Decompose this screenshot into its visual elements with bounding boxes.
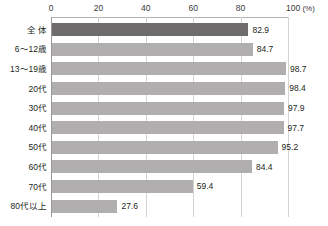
bar-container: 27.6 [52,196,328,216]
category-label: 50代 [0,138,47,158]
x-tick-label-100: 100 (%) [286,3,315,14]
bar-value-label: 97.7 [288,123,305,133]
category-label: 60代 [0,157,47,177]
bar-container: 82.9 [52,20,328,40]
category-label: 全 体 [0,20,47,40]
category-label: 40代 [0,118,47,138]
category-label: 6〜12歳 [0,40,47,60]
category-label: 20代 [0,79,47,99]
category-label: 13〜19歳 [0,59,47,79]
chart-row: 6〜12歳84.7 [0,40,328,60]
bar-container: 97.9 [52,98,328,118]
bar-chart: 020406080100 (%)全 体82.96〜12歳84.713〜19歳98… [0,0,328,226]
chart-row: 20代98.4 [0,79,328,99]
x-tick-label-40: 40 [141,3,150,13]
bar-container: 84.4 [52,157,328,177]
bar-value-label: 95.2 [282,142,299,152]
chart-row: 50代95.2 [0,138,328,158]
x-tick-label-0: 0 [49,3,54,13]
bar [52,102,284,115]
x-tick-label-80: 80 [236,3,245,13]
bar-value-label: 84.7 [257,44,274,54]
bar-container: 84.7 [52,40,328,60]
category-label: 30代 [0,98,47,118]
bar-container: 59.4 [52,177,328,197]
bar-value-label: 59.4 [197,181,214,191]
bar [52,160,252,173]
bar-container: 98.7 [52,59,328,79]
bar-container: 97.7 [52,118,328,138]
chart-row: 13〜19歳98.7 [0,59,328,79]
chart-row: 70代59.4 [0,177,328,197]
chart-row: 40代97.7 [0,118,328,138]
bar-value-label: 97.9 [288,103,305,113]
bar-value-label: 98.4 [289,83,306,93]
bar-value-label: 27.6 [121,201,138,211]
bar [52,43,253,56]
bar-container: 98.4 [52,79,328,99]
category-label: 70代 [0,177,47,197]
bar [52,23,248,36]
x-tick-label-20: 20 [94,3,103,13]
category-label: 80代以上 [0,196,47,216]
bar-value-label: 82.9 [252,25,269,35]
bar [52,121,284,134]
bar [52,82,285,95]
chart-row: 30代97.9 [0,98,328,118]
chart-row: 全 体82.9 [0,20,328,40]
bar [52,141,278,154]
chart-row: 80代以上27.6 [0,196,328,216]
x-tick-label-60: 60 [188,3,197,13]
bar-value-label: 98.7 [290,64,307,74]
chart-row: 60代84.4 [0,157,328,177]
bar [52,62,286,75]
bar [52,200,117,213]
bar-value-label: 84.4 [256,162,273,172]
bar-container: 95.2 [52,138,328,158]
bar [52,180,193,193]
